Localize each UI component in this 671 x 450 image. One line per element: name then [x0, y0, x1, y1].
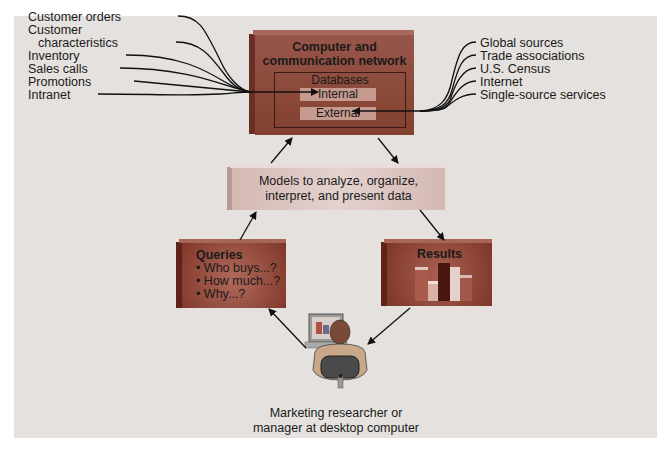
connector-lines	[0, 0, 671, 450]
